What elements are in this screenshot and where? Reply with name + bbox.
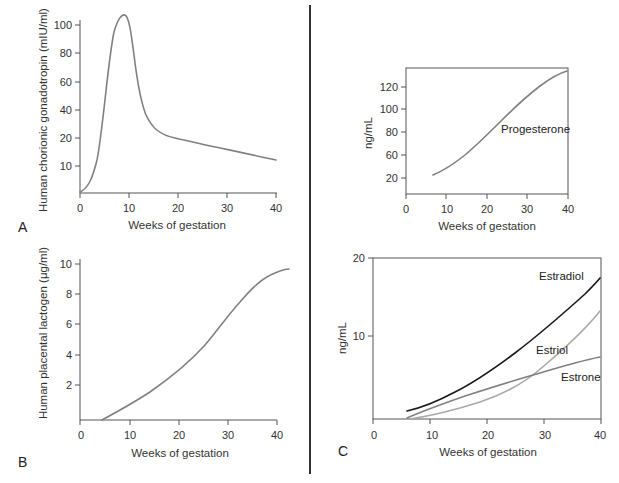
- y-tick-label: 60: [386, 149, 398, 161]
- y-axis-title: Human placental lactogen (μg/ml): [37, 247, 49, 419]
- y-tick-label: 60: [60, 76, 72, 88]
- progesterone-label: Progesterone: [501, 123, 570, 135]
- x-tick-label: 40: [594, 429, 606, 441]
- estriol-curve: [410, 311, 600, 419]
- panel-progesterone-chart: 120 100 80 60 20 ng/mL 0 10 20 30 40 Wee…: [362, 68, 574, 232]
- x-tick-label: 10: [123, 202, 135, 214]
- x-tick-label: 0: [78, 429, 84, 441]
- panel-b-hpl-chart: 10 8 6 4 2 Human placental lactogen (μg/…: [18, 247, 289, 470]
- y-tick-label: 40: [60, 104, 72, 116]
- y-tick-label: 20: [60, 132, 72, 144]
- estrone-curve: [407, 357, 600, 418]
- x-tick-label: 20: [481, 203, 493, 215]
- hpl-curve: [102, 269, 289, 420]
- panel-b-x-axis: 0 10 20 30 40 Weeks of gestation: [78, 420, 283, 459]
- y-tick-label: 80: [386, 126, 398, 138]
- estradiol-label: Estradiol: [539, 270, 584, 282]
- x-tick-label: 10: [426, 429, 438, 441]
- x-tick-label: 0: [403, 203, 409, 215]
- figure-canvas: 100 80 60 40 20 10 Human chorionic gonad…: [0, 0, 619, 483]
- plot-frame: [373, 258, 601, 419]
- y-axis-title: Human chorionic gonadotropin (mIU/ml): [37, 8, 49, 212]
- hcg-curve: [80, 15, 276, 192]
- progesterone-x-axis: 0 10 20 30 40 Weeks of gestation: [403, 194, 574, 232]
- x-axis-title: Weeks of gestation: [131, 447, 229, 459]
- panel-c-y-axis: 20 10 ng/mL: [336, 252, 373, 354]
- y-tick-label: 100: [54, 19, 72, 31]
- progesterone-y-axis: 120 100 80 60 20 ng/mL: [362, 81, 406, 184]
- x-tick-label: 0: [371, 429, 377, 441]
- y-tick-label: 2: [66, 379, 72, 391]
- panel-c-estrogens-chart: 20 10 ng/mL 0 10 20 30 40 Weeks of gesta…: [336, 252, 606, 459]
- x-axis-title: Weeks of gestation: [128, 219, 226, 231]
- x-axis-title: Weeks of gestation: [438, 220, 536, 232]
- y-tick-label: 10: [353, 330, 365, 342]
- y-tick-label: 20: [353, 252, 365, 264]
- y-tick-label: 4: [66, 349, 72, 361]
- y-tick-label: 10: [60, 160, 72, 172]
- panel-a-x-axis: 0 10 20 30 40 Weeks of gestation: [77, 193, 282, 231]
- x-tick-label: 10: [124, 429, 136, 441]
- y-tick-label: 80: [60, 47, 72, 59]
- panel-letter: A: [18, 219, 28, 235]
- x-tick-label: 30: [521, 203, 533, 215]
- y-tick-label: 20: [386, 172, 398, 184]
- x-tick-label: 20: [172, 202, 184, 214]
- y-axis-title: ng/mL: [336, 321, 348, 354]
- x-tick-label: 0: [77, 202, 83, 214]
- panel-a-y-axis: 100 80 60 40 20 10 Human chorionic gonad…: [37, 8, 80, 212]
- x-tick-label: 30: [539, 429, 551, 441]
- panel-a-hcg-chart: 100 80 60 40 20 10 Human chorionic gonad…: [18, 8, 282, 235]
- x-tick-label: 10: [441, 203, 453, 215]
- y-tick-label: 8: [66, 288, 72, 300]
- x-tick-label: 20: [482, 429, 494, 441]
- estriol-label: Estriol: [536, 344, 568, 356]
- x-tick-label: 40: [271, 429, 283, 441]
- x-axis-title: Weeks of gestation: [439, 446, 537, 458]
- panel-b-y-axis: 10 8 6 4 2 Human placental lactogen (μg/…: [37, 247, 80, 420]
- y-tick-label: 6: [66, 318, 72, 330]
- panel-letter: B: [18, 454, 27, 470]
- y-tick-label: 120: [380, 81, 398, 93]
- x-tick-label: 20: [173, 429, 185, 441]
- panel-c-x-axis: 0 10 20 30 40 Weeks of gestation: [371, 419, 606, 458]
- x-tick-label: 40: [562, 203, 574, 215]
- estrone-label: Estrone: [561, 371, 601, 383]
- y-tick-label: 100: [380, 103, 398, 115]
- panel-letter: C: [338, 443, 348, 459]
- y-tick-label: 10: [60, 258, 72, 270]
- y-axis-title: ng/mL: [362, 116, 374, 149]
- x-tick-label: 30: [221, 202, 233, 214]
- x-tick-label: 40: [270, 202, 282, 214]
- x-tick-label: 30: [222, 429, 234, 441]
- estradiol-curve: [407, 278, 600, 411]
